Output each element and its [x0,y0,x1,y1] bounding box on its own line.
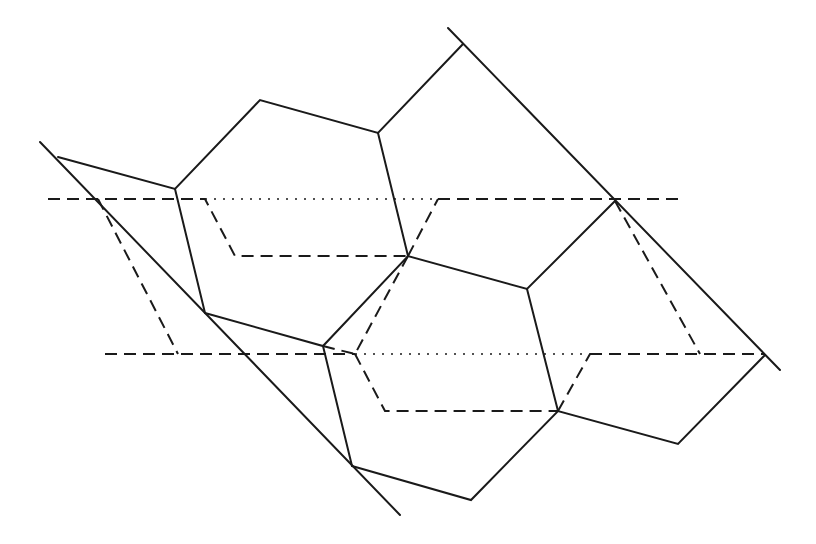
diagram-background [0,0,816,544]
tiling-diagram [0,0,816,544]
diagram-canvas [0,0,816,544]
